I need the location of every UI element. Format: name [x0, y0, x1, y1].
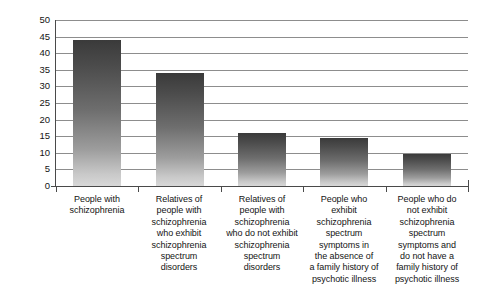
x-category-label: Relatives ofpeople withschizophreniawho … [138, 194, 220, 274]
x-category-label-line: schizophrenia [56, 205, 138, 216]
x-axis-tick [56, 186, 57, 192]
bar [403, 154, 451, 186]
x-category-label-line: spectrum [221, 251, 303, 262]
x-category-label: People who donot exhibitschizophreniaspe… [386, 194, 468, 284]
x-category-label-line: symptoms and [386, 240, 468, 251]
bar-chart: Percentage abnormal 05101520253035404550… [0, 0, 484, 284]
y-tick-label-50: 50 [30, 15, 50, 25]
x-category-label-line: who exhibit [138, 228, 220, 239]
y-axis-tick-labels: 05101520253035404550 [28, 20, 50, 186]
x-category-label-line: do not have a [386, 251, 468, 262]
x-axis-tick [468, 186, 469, 192]
gridline-50 [56, 20, 468, 21]
x-category-label: Relatives ofpeople withschizophreniawho … [221, 194, 303, 274]
y-tick-label-10: 10 [30, 148, 50, 158]
x-category-label: People withschizophrenia [56, 194, 138, 217]
x-category-label-line: not exhibit [386, 205, 468, 216]
y-tick-label-35: 35 [30, 65, 50, 75]
gridline-0 [56, 186, 468, 187]
x-category-label-line: schizophrenia [138, 240, 220, 251]
y-tick-label-45: 45 [30, 32, 50, 42]
y-tick-label-5: 5 [30, 164, 50, 174]
x-category-label-line: schizophrenia [386, 217, 468, 228]
x-category-label-line: people with [221, 205, 303, 216]
bar [320, 138, 368, 186]
x-category-label-line: People who [303, 194, 385, 205]
x-category-label-line: exhibit [303, 205, 385, 216]
x-category-label-line: spectrum [386, 228, 468, 239]
bar [238, 133, 286, 186]
x-category-label-line: a family history of [303, 262, 385, 273]
x-category-label-line: Relatives of [138, 194, 220, 205]
x-category-label-line: schizophrenia [221, 217, 303, 228]
y-tick-label-0: 0 [30, 181, 50, 191]
x-axis-tick [386, 186, 387, 192]
x-category-label-line: psychotic illness [386, 274, 468, 284]
plot-area [56, 20, 468, 186]
x-category-label-line: schizophrenia [138, 217, 220, 228]
x-category-label-line: People with [56, 194, 138, 205]
x-category-label-line: Relatives of [221, 194, 303, 205]
x-category-label-line: the absence of [303, 251, 385, 262]
x-axis-tick [221, 186, 222, 192]
x-axis-tick [138, 186, 139, 192]
x-category-label-line: schizophrenia [221, 240, 303, 251]
bar [156, 73, 204, 186]
x-category-label-line: People who do [386, 194, 468, 205]
y-tick-label-25: 25 [30, 98, 50, 108]
x-category-label-line: psychotic illness [303, 274, 385, 284]
bar [73, 40, 121, 186]
x-category-label-line: family history of [386, 262, 468, 273]
x-category-label-line: schizophrenia [303, 217, 385, 228]
x-category-label: People whoexhibitschizophreniaspectrumsy… [303, 194, 385, 284]
x-category-label-line: symptoms in [303, 240, 385, 251]
x-category-label-line: people with [138, 205, 220, 216]
y-tick-label-30: 30 [30, 81, 50, 91]
gridline-45 [56, 37, 468, 38]
x-category-label-line: who do not exhibit [221, 228, 303, 239]
x-category-label-line: spectrum [303, 228, 385, 239]
x-axis-category-labels: People withschizophreniaRelatives ofpeop… [56, 194, 468, 280]
y-tick-label-40: 40 [30, 48, 50, 58]
x-category-label-line: spectrum [138, 251, 220, 262]
y-tick-label-20: 20 [30, 115, 50, 125]
x-category-label-line: disorders [138, 262, 220, 273]
x-axis-tick [303, 186, 304, 192]
y-tick-label-15: 15 [30, 131, 50, 141]
x-category-label-line: disorders [221, 262, 303, 273]
